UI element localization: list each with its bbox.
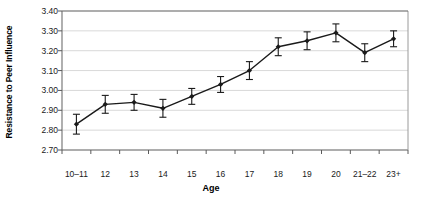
data-markers — [74, 30, 396, 127]
x-axis-ticks — [62, 150, 408, 154]
gridlines — [62, 11, 408, 150]
x-axis-label: Age — [0, 183, 422, 193]
chart-container: Resistance to Peer Influence 2.702.802.9… — [0, 0, 422, 207]
error-bars — [73, 24, 397, 134]
x-axis-tick-labels: 10–1112131415161718192021–2223+ — [0, 170, 422, 184]
x-tick-label: 23+ — [374, 170, 414, 179]
y-axis-ticks — [58, 11, 62, 150]
plot-frame — [62, 11, 408, 150]
